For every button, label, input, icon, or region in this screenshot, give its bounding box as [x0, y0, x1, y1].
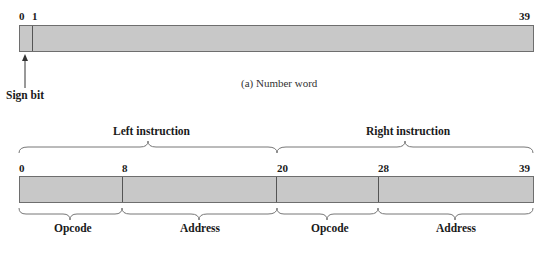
opcode-right-label: Opcode: [311, 222, 349, 234]
bit-label-8: 8: [122, 163, 128, 174]
bit-label-20: 20: [277, 163, 288, 174]
divider-bit-20: [276, 177, 277, 202]
divider-bit-8: [122, 177, 123, 202]
bit-label-28: 28: [378, 163, 389, 174]
address-right-label: Address: [436, 222, 476, 234]
bit-label-39: 39: [519, 163, 530, 174]
brace-icons: [0, 0, 544, 257]
opcode-left-label: Opcode: [54, 222, 92, 234]
divider-bit-28: [378, 177, 379, 202]
address-left-label: Address: [180, 222, 220, 234]
instruction-word-bar: [19, 176, 534, 203]
bit-label-0: 0: [19, 163, 25, 174]
